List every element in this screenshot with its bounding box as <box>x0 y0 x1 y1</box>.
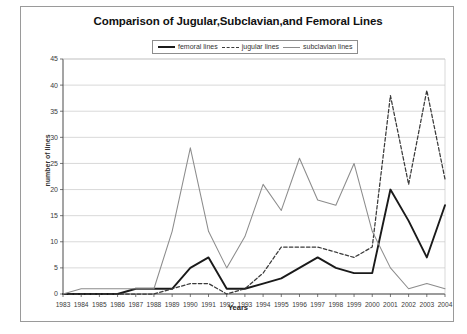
svg-text:1992: 1992 <box>219 301 234 308</box>
series-line-subclavian-lines <box>63 148 445 294</box>
svg-text:1988: 1988 <box>147 301 162 308</box>
svg-text:1993: 1993 <box>238 301 253 308</box>
svg-text:1983: 1983 <box>56 301 71 308</box>
svg-text:20: 20 <box>50 186 58 193</box>
svg-text:1984: 1984 <box>74 301 89 308</box>
svg-text:2004: 2004 <box>438 301 453 308</box>
svg-text:5: 5 <box>54 264 58 271</box>
svg-text:2000: 2000 <box>365 301 380 308</box>
svg-text:1999: 1999 <box>347 301 362 308</box>
svg-text:1989: 1989 <box>165 301 180 308</box>
svg-text:35: 35 <box>50 108 58 115</box>
svg-text:1986: 1986 <box>110 301 125 308</box>
svg-text:25: 25 <box>50 160 58 167</box>
svg-text:1997: 1997 <box>310 301 325 308</box>
svg-text:15: 15 <box>50 212 58 219</box>
svg-text:0: 0 <box>54 290 58 297</box>
svg-text:1991: 1991 <box>201 301 216 308</box>
axis-lines <box>63 59 445 294</box>
plot-svg: 051015202530354045 198319841985198619871… <box>21 7 455 323</box>
svg-text:1998: 1998 <box>329 301 344 308</box>
svg-text:10: 10 <box>50 238 58 245</box>
svg-text:1994: 1994 <box>256 301 271 308</box>
svg-text:2002: 2002 <box>401 301 416 308</box>
svg-text:2003: 2003 <box>419 301 434 308</box>
data-series-group <box>63 90 445 294</box>
svg-text:45: 45 <box>50 55 58 62</box>
svg-text:1995: 1995 <box>274 301 289 308</box>
svg-text:1996: 1996 <box>292 301 307 308</box>
figure-frame: Comparison of Jugular,Subclavian,and Fem… <box>20 6 454 322</box>
svg-text:2001: 2001 <box>383 301 398 308</box>
svg-text:30: 30 <box>50 134 58 141</box>
chart-root: Comparison of Jugular,Subclavian,and Fem… <box>0 0 467 334</box>
svg-text:1990: 1990 <box>183 301 198 308</box>
x-axis-ticks: 1983198419851986198719881989199019911992… <box>56 294 453 308</box>
y-axis-ticks: 051015202530354045 <box>50 55 63 297</box>
gridlines <box>63 59 445 294</box>
svg-text:1987: 1987 <box>128 301 143 308</box>
plot-area: 051015202530354045 198319841985198619871… <box>21 7 455 323</box>
svg-text:1985: 1985 <box>92 301 107 308</box>
svg-text:40: 40 <box>50 82 58 89</box>
